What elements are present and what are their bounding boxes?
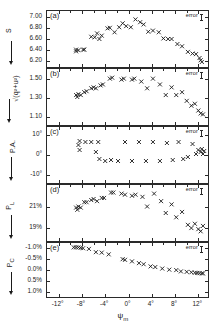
data-markers-e <box>47 243 208 297</box>
x-tick-label: 4° <box>139 301 163 307</box>
panel-d: (d)error <box>46 184 209 242</box>
x-tick-label: -8° <box>69 301 93 307</box>
y-axis-label-PL: PL <box>5 202 14 210</box>
y-axis-arrow-head <box>9 235 13 239</box>
panel-c: (c)error <box>46 126 209 184</box>
y-axis-label-PA: P.A. <box>9 140 16 153</box>
y-tick-label: 1.50 <box>0 75 42 81</box>
y-tick-label: 6.60 <box>0 35 42 41</box>
x-tick-label: 12° <box>185 301 209 307</box>
y-axis-arrow-shaft <box>11 272 12 292</box>
data-markers-c <box>47 127 208 183</box>
y-axis-label-sqrt: √(q²+u²) <box>12 75 19 102</box>
y-tick-label: 1.0% <box>0 288 42 294</box>
y-axis-label-PC: PC <box>6 258 15 267</box>
y-tick-label: 1.30 <box>0 94 42 100</box>
y-axis-arrow-head <box>9 61 13 65</box>
y-axis-arrow-shaft <box>9 99 10 120</box>
y-axis-arrow-head <box>7 119 11 123</box>
y-axis-arrow-shaft <box>11 215 12 236</box>
x-axis-label: ψm <box>118 311 129 322</box>
y-tick-label: 19% <box>0 224 42 230</box>
y-axis-label-S: S <box>5 28 12 33</box>
data-markers-d <box>47 185 208 241</box>
y-tick-label: 6.40 <box>0 46 42 52</box>
y-tick-label: 7.00 <box>0 13 42 19</box>
panel-a: (a)error <box>46 10 209 68</box>
y-tick-label: 10° <box>0 131 42 137</box>
figure-root: (a)error7.006.806.606.406.20(b)error1.50… <box>0 0 213 323</box>
data-markers-b <box>47 69 208 125</box>
data-markers-a <box>47 11 208 67</box>
panel-e: (e)error <box>46 242 209 298</box>
y-axis-arrow-head <box>9 177 13 181</box>
panel-b: (b)error <box>46 68 209 126</box>
y-tick-label: -1.0% <box>0 244 42 250</box>
x-tick-label: -12° <box>46 301 70 307</box>
y-tick-label: 0° <box>0 151 42 157</box>
x-tick-label: 8° <box>162 301 186 307</box>
x-tick-label: -4° <box>92 301 116 307</box>
y-axis-arrow-shaft <box>11 157 12 178</box>
y-axis-arrow-shaft <box>11 41 12 62</box>
x-axis-label-subscript: m <box>123 316 128 322</box>
y-tick-label: 0.5% <box>0 277 42 283</box>
y-axis-arrow-head <box>9 291 13 295</box>
x-tick-label: 0° <box>116 301 140 307</box>
y-tick-label: -10° <box>0 171 42 177</box>
y-tick-label: 6.20 <box>0 57 42 63</box>
